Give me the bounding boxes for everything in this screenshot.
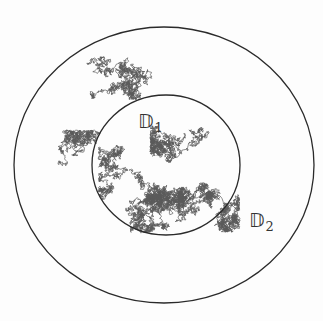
- label-d2-subscript: 2: [266, 219, 274, 234]
- label-d1-subscript: 1: [155, 120, 163, 135]
- figure: 𝔻1 𝔻2: [0, 0, 323, 321]
- outer-disk-d2: [14, 27, 314, 303]
- label-d2-symbol: 𝔻: [249, 209, 265, 231]
- brownian-path-segment: [98, 145, 128, 199]
- disk-diagram: [0, 0, 323, 321]
- label-d2: 𝔻2: [249, 211, 274, 230]
- brownian-path-segment: [126, 185, 190, 233]
- brownian-path: [40, 57, 240, 233]
- label-d1-symbol: 𝔻: [138, 110, 154, 132]
- brownian-path-segment: [87, 57, 152, 100]
- label-d1: 𝔻1: [138, 112, 163, 131]
